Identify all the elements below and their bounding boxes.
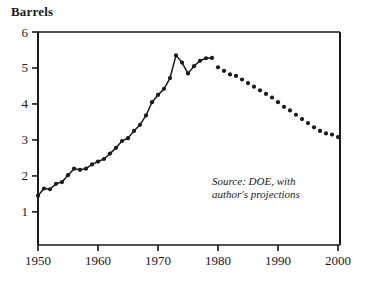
x-axis-ticks: 195019601970198019902000: [25, 245, 351, 268]
data-point: [210, 56, 214, 60]
projection-point: [330, 132, 334, 136]
projection-point: [270, 95, 274, 99]
projection-point: [252, 85, 256, 89]
data-point: [192, 64, 196, 68]
data-point: [54, 182, 58, 186]
data-point: [120, 139, 124, 143]
x-tick-label: 1950: [25, 253, 51, 268]
series-historical: [36, 53, 214, 198]
data-point: [138, 123, 142, 127]
y-tick-label: 2: [22, 168, 29, 183]
data-point: [150, 100, 154, 104]
y-axis-ticks: 123456: [22, 25, 39, 220]
data-point: [156, 93, 160, 97]
y-tick-label: 1: [22, 204, 29, 219]
source-annotation: Source: DOE, withauthor's projections: [212, 175, 300, 200]
data-point: [36, 194, 40, 198]
projection-point: [324, 131, 328, 135]
data-point: [48, 187, 52, 191]
projection-point: [258, 88, 262, 92]
data-point: [204, 56, 208, 60]
historical-line: [38, 55, 212, 195]
data-point: [168, 76, 172, 80]
data-point: [186, 71, 190, 75]
axis-frame: [38, 32, 340, 245]
data-point: [144, 113, 148, 117]
data-point: [180, 60, 184, 64]
projection-point: [288, 108, 292, 112]
projection-point: [312, 125, 316, 129]
data-point: [60, 180, 64, 184]
data-point: [198, 59, 202, 63]
data-point: [66, 173, 70, 177]
projection-point: [240, 77, 244, 81]
y-tick-label: 4: [22, 96, 29, 111]
y-tick-label: 3: [22, 132, 29, 147]
projection-point: [228, 72, 232, 76]
projection-point: [300, 117, 304, 121]
projection-point: [294, 113, 298, 117]
x-tick-label: 2000: [325, 253, 351, 268]
projection-point: [318, 129, 322, 133]
y-tick-label: 5: [22, 60, 29, 75]
data-point: [102, 157, 106, 161]
chart-figure: Barrels 123456 195019601970198019902000 …: [0, 0, 367, 290]
projection-point: [336, 135, 340, 139]
projection-point: [306, 121, 310, 125]
x-tick-label: 1960: [85, 253, 111, 268]
projection-point: [276, 100, 280, 104]
x-tick-label: 1990: [265, 253, 291, 268]
projection-point: [234, 74, 238, 78]
data-point: [78, 168, 82, 172]
data-point: [126, 136, 130, 140]
projection-point: [282, 105, 286, 109]
oil-consumption-chart: 123456 195019601970198019902000 Source: …: [0, 0, 367, 290]
x-tick-label: 1970: [145, 253, 171, 268]
data-point: [42, 186, 46, 190]
projection-point: [222, 69, 226, 73]
annotation-text: Source: DOE, with: [212, 175, 296, 187]
data-point: [72, 167, 76, 171]
projection-point: [246, 81, 250, 85]
data-point: [96, 159, 100, 163]
data-point: [114, 146, 118, 150]
data-point: [132, 129, 136, 133]
data-point: [108, 152, 112, 156]
data-point: [90, 162, 94, 166]
annotation-text: author's projections: [212, 188, 300, 200]
x-tick-label: 1980: [205, 253, 231, 268]
series-projection: [216, 65, 340, 139]
y-tick-label: 6: [22, 25, 29, 40]
data-point: [84, 167, 88, 171]
data-point: [174, 53, 178, 57]
projection-point: [264, 92, 268, 96]
projection-point: [216, 65, 220, 69]
data-point: [162, 87, 166, 91]
